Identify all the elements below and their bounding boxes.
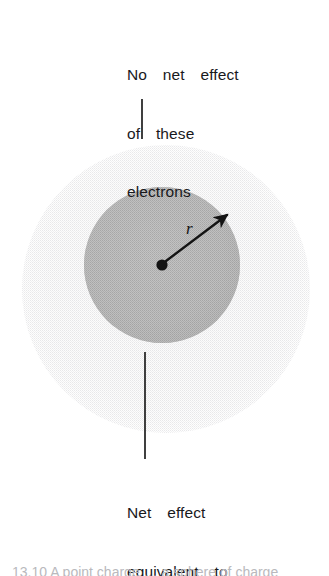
no-net-effect-line-3: electrons: [127, 182, 239, 202]
physics-figure: r No net effect of these electrons Net e…: [0, 0, 329, 576]
figure-caption-cropped: 13.10 A point charge … a sphere of charg…: [12, 564, 322, 576]
no-net-effect-line-2: of these: [127, 124, 239, 144]
no-net-effect-line-1: No net effect: [127, 65, 239, 85]
no-net-effect-label: No net effect of these electrons: [127, 26, 239, 241]
net-effect-label: Net effect equivalent to a point charge …: [127, 464, 249, 576]
centre-point-charge: [156, 259, 167, 270]
net-effect-line-1: Net effect: [127, 503, 249, 523]
